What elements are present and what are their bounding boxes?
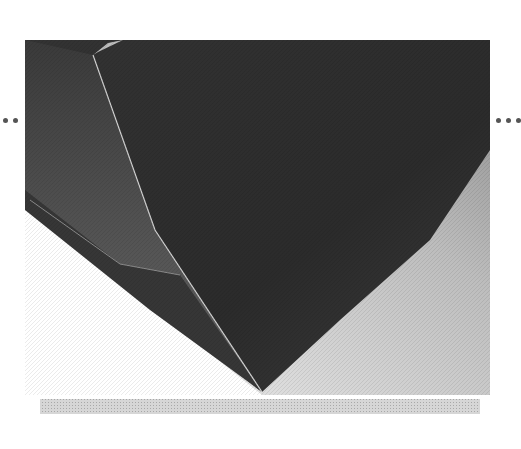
dot-icon [516, 118, 521, 123]
dot-icon [496, 118, 501, 123]
next-button[interactable] [496, 118, 521, 123]
dot-icon [13, 118, 18, 123]
dot-icon [506, 118, 511, 123]
shadow-strip [40, 399, 480, 414]
prev-button[interactable] [3, 118, 18, 123]
dot-icon [3, 118, 8, 123]
photo [0, 0, 521, 449]
